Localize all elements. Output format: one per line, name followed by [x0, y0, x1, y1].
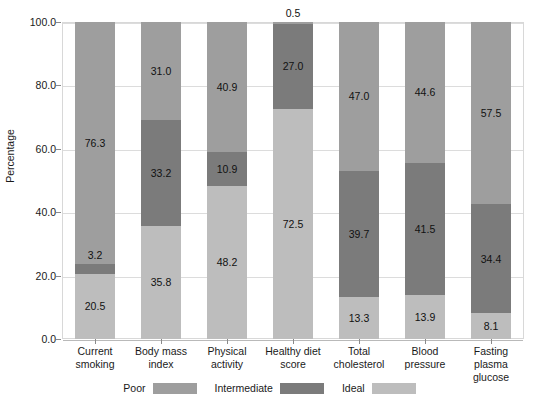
- x-axis-label: Totalcholesterol: [326, 345, 392, 371]
- x-tick-mark: [425, 339, 426, 344]
- bar-value-label: 13.3: [349, 313, 369, 324]
- y-tick-mark: [56, 212, 61, 213]
- bar-segment-poor[interactable]: 40.9: [207, 22, 247, 152]
- y-tick-mark: [56, 149, 61, 150]
- bar-segment-poor[interactable]: 44.6: [405, 22, 445, 163]
- bar-segment-poor[interactable]: 47.0: [339, 22, 379, 171]
- bar-segment-poor[interactable]: 31.0: [141, 22, 181, 120]
- chart-page: Percentage 0.020.040.060.080.0100.0 76.3…: [0, 0, 539, 413]
- x-axis-label-line: cholesterol: [326, 358, 392, 371]
- x-tick-mark: [293, 339, 294, 344]
- y-tick-mark: [56, 22, 61, 23]
- bar-segment-intermediate[interactable]: 3.2: [75, 264, 115, 274]
- x-tick-mark: [359, 339, 360, 344]
- bar-stack: 31.033.235.8: [141, 22, 181, 339]
- x-tick-mark: [95, 339, 96, 344]
- x-axis-label-line: Blood: [392, 345, 458, 358]
- bar-segment-ideal[interactable]: 35.8: [141, 226, 181, 339]
- bar-segment-ideal[interactable]: 48.2: [207, 186, 247, 339]
- x-axis-label-line: Total: [326, 345, 392, 358]
- x-axis-label-line: Body mass: [128, 345, 194, 358]
- bar-value-label: 48.2: [217, 257, 237, 268]
- x-axis-label-line: Current: [62, 345, 128, 358]
- bar-segment-intermediate[interactable]: 10.9: [207, 152, 247, 187]
- bar-group[interactable]: 0.527.072.5: [273, 22, 313, 339]
- legend-swatch: [153, 383, 197, 394]
- bar-segment-intermediate[interactable]: 41.5: [405, 163, 445, 295]
- y-tick-label: 40.0: [10, 207, 56, 218]
- y-tick-label: 100.0: [10, 17, 56, 28]
- x-axis-label-line: Physical: [194, 345, 260, 358]
- bar-segment-ideal[interactable]: 20.5: [75, 274, 115, 339]
- bar-value-label: 0.5: [286, 8, 301, 19]
- bar-segment-ideal[interactable]: 13.3: [339, 297, 379, 339]
- x-tick-mark: [491, 339, 492, 344]
- y-tick-label: 20.0: [10, 271, 56, 282]
- legend-swatch: [372, 383, 416, 394]
- legend-swatch: [280, 383, 324, 394]
- y-tick-mark: [56, 339, 61, 340]
- x-axis-label: Fasting plasmaglucose: [458, 345, 524, 384]
- bar-value-label: 40.9: [217, 82, 237, 93]
- x-axis-label-line: Fasting plasma: [458, 345, 524, 371]
- bar-group[interactable]: 44.641.513.9: [405, 22, 445, 339]
- legend-entry[interactable]: Intermediate: [215, 383, 324, 394]
- y-tick-label: 80.0: [10, 80, 56, 91]
- legend-entry[interactable]: Poor: [123, 383, 196, 394]
- bar-value-label: 76.3: [85, 138, 105, 149]
- bar-segment-ideal[interactable]: 72.5: [273, 109, 313, 339]
- x-axis-label-line: smoking: [62, 358, 128, 371]
- bar-value-label: 31.0: [151, 66, 171, 77]
- x-axis-label-line: activity: [194, 358, 260, 371]
- bar-value-label: 41.5: [415, 224, 435, 235]
- bar-group[interactable]: 40.910.948.2: [207, 22, 247, 339]
- x-axis-label: Healthy dietscore: [260, 345, 326, 371]
- legend-label: Poor: [123, 383, 145, 394]
- x-axis-label-line: index: [128, 358, 194, 371]
- bar-value-label: 8.1: [484, 321, 499, 332]
- legend-label: Ideal: [342, 383, 365, 394]
- bar-stack: 76.33.220.5: [75, 22, 115, 339]
- bar-stack: 57.534.48.1: [471, 22, 511, 339]
- bar-group[interactable]: 47.039.713.3: [339, 22, 379, 339]
- bar-value-label: 47.0: [349, 91, 369, 102]
- legend: PoorIntermediateIdeal: [0, 383, 539, 394]
- bar-segment-intermediate[interactable]: 39.7: [339, 171, 379, 297]
- bar-group[interactable]: 76.33.220.5: [75, 22, 115, 339]
- bar-segment-intermediate[interactable]: 34.4: [471, 204, 511, 313]
- x-axis-label-line: pressure: [392, 358, 458, 371]
- bar-value-label: 33.2: [151, 168, 171, 179]
- bar-value-label: 27.0: [283, 61, 303, 72]
- x-axis-label-line: score: [260, 358, 326, 371]
- x-axis-labels: CurrentsmokingBody massindexPhysicalacti…: [62, 345, 524, 377]
- bar-group[interactable]: 57.534.48.1: [471, 22, 511, 339]
- bar-segment-poor[interactable]: 76.3: [75, 22, 115, 264]
- bar-segment-ideal[interactable]: 13.9: [405, 295, 445, 339]
- bar-value-label: 34.4: [481, 254, 501, 265]
- bar-value-label: 3.2: [88, 250, 103, 261]
- y-tick-mark: [56, 85, 61, 86]
- y-axis-ticks: 0.020.040.060.080.0100.0: [6, 22, 56, 339]
- bar-value-label: 20.5: [85, 301, 105, 312]
- bar-segment-poor[interactable]: 57.5: [471, 22, 511, 204]
- bar-value-label: 72.5: [283, 219, 303, 230]
- bar-stack: 40.910.948.2: [207, 22, 247, 339]
- bar-segment-intermediate[interactable]: 33.2: [141, 120, 181, 225]
- legend-label: Intermediate: [215, 383, 273, 394]
- x-axis-label: Currentsmoking: [62, 345, 128, 371]
- x-axis-label: Body massindex: [128, 345, 194, 371]
- bar-value-label: 35.8: [151, 277, 171, 288]
- bar-stack: 44.641.513.9: [405, 22, 445, 339]
- bar-group[interactable]: 31.033.235.8: [141, 22, 181, 339]
- legend-entry[interactable]: Ideal: [342, 383, 416, 394]
- bar-value-label: 10.9: [217, 164, 237, 175]
- x-tick-mark: [227, 339, 228, 344]
- bar-value-label: 39.7: [349, 229, 369, 240]
- bar-stack: 0.527.072.5: [273, 22, 313, 339]
- y-tick-mark: [56, 276, 61, 277]
- bar-value-label: 57.5: [481, 108, 501, 119]
- bar-segment-intermediate[interactable]: 27.0: [273, 24, 313, 110]
- x-axis-label: Bloodpressure: [392, 345, 458, 371]
- bar-segment-ideal[interactable]: 8.1: [471, 313, 511, 339]
- x-axis-label-line: Healthy diet: [260, 345, 326, 358]
